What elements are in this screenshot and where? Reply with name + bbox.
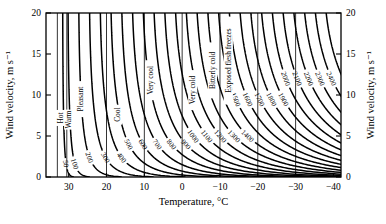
y-tick-label-right-1: 5 <box>346 131 351 141</box>
zone-label-cool: Cool <box>113 107 122 121</box>
y-tick-label-right-4: 20 <box>346 8 356 18</box>
chart-svg: 5010020030040050060070080090010001100120… <box>0 0 386 224</box>
y-tick-label-right-3: 15 <box>346 49 356 59</box>
zone-label-exposed-flesh-freezes: Exposed flesh freezes <box>224 28 233 93</box>
y-axis-title-left: Wind velocity, m s⁻¹ <box>4 51 15 139</box>
x-axis-title: Temperature, °C <box>159 196 228 207</box>
zone-label-very-cold: Very cold <box>188 76 197 105</box>
zone-label-warm: Warm <box>64 110 73 128</box>
zone-label-pleasant: Pleasant <box>76 86 85 112</box>
zone-label-group: Bitterly cold <box>208 42 217 98</box>
y-tick-label-left-3: 15 <box>32 49 42 59</box>
zone-label-group: Pleasant <box>76 81 85 117</box>
x-tick-label-0: 30 <box>64 182 74 192</box>
x-tick-label-6: −30 <box>288 182 303 192</box>
x-tick-label-5: −20 <box>250 182 265 192</box>
zone-label-bitterly-cold: Bitterly cold <box>208 52 217 89</box>
wind-chill-chart: 5010020030040050060070080090010001100120… <box>0 0 386 224</box>
zone-label-group: Cool <box>113 105 122 125</box>
x-tick-label-1: 20 <box>102 182 112 192</box>
x-tick-label-3: 0 <box>180 182 185 192</box>
zone-label-very-cool: Very cool <box>146 66 155 95</box>
y-tick-label-left-1: 5 <box>36 131 41 141</box>
y-tick-label-left-2: 10 <box>32 90 42 100</box>
x-tick-label-7: −40 <box>326 182 341 192</box>
x-tick-label-2: 10 <box>140 182 150 192</box>
x-tick-label-4: −10 <box>213 182 228 192</box>
y-axis-title-right: Wind velocity, m s⁻¹ <box>365 51 376 139</box>
zone-label-group: Very cold <box>188 70 197 110</box>
zone-label-group: Warm <box>64 110 73 130</box>
y-tick-label-right-2: 10 <box>346 90 356 100</box>
zone-label-group: Very cool <box>145 60 154 100</box>
y-tick-label-right-0: 0 <box>346 172 351 182</box>
zone-label-group: Exposed flesh freezes <box>224 17 233 105</box>
y-tick-label-left-0: 0 <box>36 172 41 182</box>
y-tick-label-left-4: 20 <box>32 8 42 18</box>
